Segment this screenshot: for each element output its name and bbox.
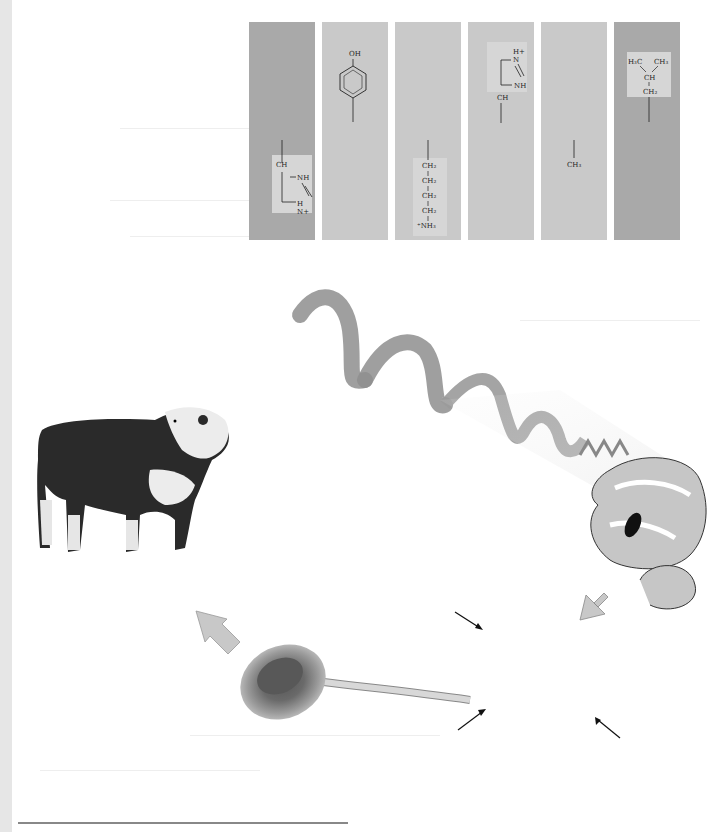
caption-rule [18,822,348,824]
svg-text:NH: NH [297,174,309,182]
svg-text:N+: N+ [297,208,309,216]
side-chain-leucine: H₃C CH₃ CH CH₂ [627,52,671,122]
assembly-arrows [455,612,620,738]
side-chain-histidine-1: CH NH H N+ [272,140,312,216]
svg-text:CH₂: CH₂ [422,162,436,170]
cow-image [37,407,229,552]
side-chain-lysine: CH₂ CH₂ CH₂ CH₂ ⁺NH₃ [413,140,447,236]
svg-text:CH: CH [276,161,287,169]
svg-text:CH₃: CH₃ [567,161,581,169]
svg-text:CH₂: CH₂ [422,192,436,200]
side-chain-alanine: CH₃ [567,140,581,169]
svg-text:CH₃: CH₃ [654,58,668,66]
svg-text:CH: CH [644,74,655,82]
svg-text:⁺NH₃: ⁺NH₃ [417,222,436,230]
svg-text:CH₂: CH₂ [422,207,436,215]
svg-text:H₃C: H₃C [628,58,642,66]
protein-structure-diagram: CH NH H N+ OH CH₂ CH₂ CH₂ CH₂ ⁺NH₃ H+ N … [0,0,717,832]
side-chain-histidine-2: H+ N NH CH [487,42,527,123]
svg-text:CH₂: CH₂ [643,88,657,96]
svg-text:N: N [513,56,519,64]
svg-text:NH: NH [514,82,526,90]
cell-to-cow-arrow [196,611,240,654]
tertiary-to-quaternary-arrow [580,593,608,620]
svg-text:CH₂: CH₂ [422,177,436,185]
svg-text:H+: H+ [513,48,525,56]
svg-text:H: H [297,200,303,208]
tertiary-structure-subunit [591,458,706,609]
svg-text:OH: OH [349,50,361,58]
red-blood-cell [228,631,338,733]
svg-text:CH: CH [497,94,508,102]
side-chain-tyrosine: OH [340,50,366,122]
